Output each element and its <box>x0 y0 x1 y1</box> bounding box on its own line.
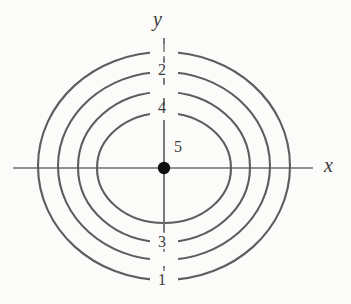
figure-canvas: y x 2 4 5 3 1 <box>0 0 351 304</box>
contour-label-3: 3 <box>154 234 170 250</box>
contour-label-2: 2 <box>154 62 170 78</box>
y-axis-label: y <box>153 9 162 29</box>
x-axis-label: x <box>324 155 333 175</box>
contour-label-4: 4 <box>154 100 170 116</box>
center-point <box>158 162 170 174</box>
contour-label-1: 1 <box>154 272 170 288</box>
contour-label-5: 5 <box>170 139 186 155</box>
